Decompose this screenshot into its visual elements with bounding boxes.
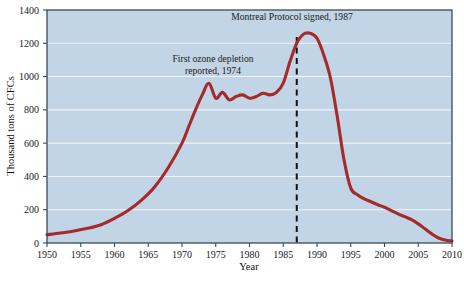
x-tick-label-1950: 1950	[37, 249, 57, 260]
x-tick-label-2000: 2000	[375, 249, 395, 260]
x-tick-label-2005: 2005	[408, 249, 428, 260]
y-tick-label-1400: 1400	[19, 5, 39, 16]
y-tick-label-0: 0	[34, 238, 39, 249]
y-tick-label-200: 200	[24, 204, 39, 215]
x-axis-title: Year	[239, 261, 259, 272]
x-tick-label-1965: 1965	[138, 249, 158, 260]
y-axis-title: Thousand tons of CFCs	[5, 76, 16, 175]
y-tick-label-1200: 1200	[19, 38, 39, 49]
y-tick-label-800: 800	[24, 104, 39, 115]
x-tick-label-1975: 1975	[206, 249, 226, 260]
chart-canvas: 0200400600800100012001400 19501955196019…	[0, 0, 464, 283]
x-tick-label-1980: 1980	[240, 249, 260, 260]
cfc-production-chart: 0200400600800100012001400 19501955196019…	[0, 0, 464, 283]
y-tick-label-600: 600	[24, 138, 39, 149]
annotation-montreal-protocol-note: Montreal Protocol signed, 1987	[231, 11, 353, 22]
y-tick-label-1000: 1000	[19, 71, 39, 82]
y-tick-label-400: 400	[24, 171, 39, 182]
x-tick-label-1990: 1990	[307, 249, 327, 260]
x-tick-label-1970: 1970	[172, 249, 192, 260]
x-tick-label-1995: 1995	[341, 249, 361, 260]
x-tick-label-1955: 1955	[71, 249, 91, 260]
x-tick-label-1960: 1960	[105, 249, 125, 260]
plot-background	[47, 10, 452, 243]
x-tick-label-1985: 1985	[273, 249, 293, 260]
x-tick-label-2010: 2010	[442, 249, 462, 260]
